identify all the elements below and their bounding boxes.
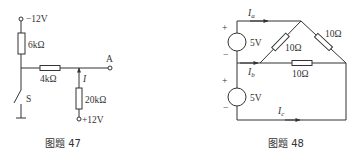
plus-upper: + <box>222 23 227 33</box>
figure-47: −12V 6kΩ 4kΩ A I 20kΩ +12V S 图题 47 <box>14 14 113 149</box>
label-neg12v: −12V <box>26 14 48 24</box>
label-a: A <box>106 54 113 64</box>
terminal-neg12v <box>19 17 23 21</box>
label-10-horizontal: 10Ω <box>292 69 309 79</box>
label-ia: Ia <box>247 8 255 20</box>
resistor-4k <box>40 66 60 71</box>
label-6k: 6kΩ <box>28 40 45 50</box>
label-20k: 20kΩ <box>85 95 106 105</box>
label-s: S <box>26 94 31 104</box>
label-10-diag-left: 10Ω <box>285 43 302 53</box>
caption-47: 图题 47 <box>45 138 81 149</box>
circuit-diagrams: −12V 6kΩ 4kΩ A I 20kΩ +12V S 图题 47 <box>0 0 357 157</box>
label-ic: Ic <box>277 106 285 118</box>
voltage-source-lower <box>228 88 246 106</box>
switch-s <box>14 90 21 103</box>
terminal-a <box>108 66 112 70</box>
label-i: I <box>82 74 87 84</box>
resistor-6k <box>18 33 25 54</box>
minus-upper: − <box>223 50 228 60</box>
label-pos12v: +12V <box>82 115 104 125</box>
plus-lower: + <box>222 76 227 86</box>
resistor-20k <box>76 88 82 109</box>
resistor-horizontal <box>292 61 312 66</box>
label-10-diag-right: 10Ω <box>325 29 342 39</box>
minus-lower: − <box>223 103 228 113</box>
figure-48: + − 5V + − 5V Ia Ib 10Ω 10Ω 10Ω Ic 图题 48 <box>222 8 346 149</box>
label-4k: 4kΩ <box>40 74 57 84</box>
label-5v-upper: 5V <box>250 38 262 48</box>
label-5v-lower: 5V <box>250 93 262 103</box>
voltage-source-upper <box>228 33 246 51</box>
terminal-pos12v <box>77 117 81 121</box>
caption-48: 图题 48 <box>268 138 304 149</box>
label-ib: Ib <box>247 67 255 79</box>
